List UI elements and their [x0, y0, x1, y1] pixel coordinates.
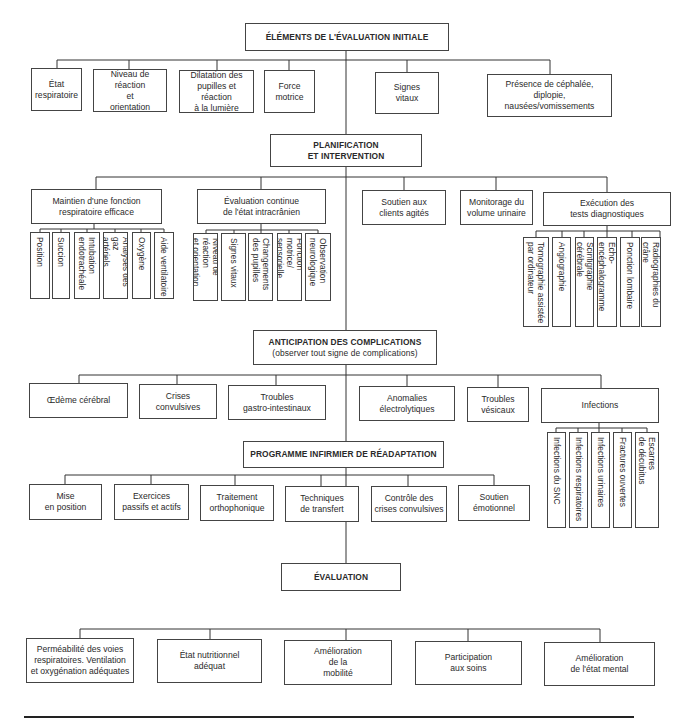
evaluation-item: Amélioration de l'état mental — [544, 642, 655, 686]
subitem-label: Observation neurologique — [308, 238, 328, 286]
subitem-label: Escarres de décubitus — [637, 437, 657, 485]
intracranial-subitem: Changements des pupilles — [248, 233, 273, 301]
diagnostic-test-subitem: Angiographie — [552, 237, 571, 327]
complications-title: ANTICIPATION DES COMPLICATIONS (observer… — [253, 330, 437, 365]
diagnostic-test-subitem: Scintigraphie cérébrale — [575, 237, 594, 327]
planning-title: PLANIFICATION ET INTERVENTION — [270, 134, 422, 167]
subitem-label: Oxygène — [137, 237, 147, 271]
subitem-label: Ponction lombaire — [625, 242, 635, 309]
intracranial-subitem: Signes vitaux — [221, 233, 246, 301]
respiratory-subitem: Position — [30, 232, 50, 299]
diagnostic-test-subitem: Ponction lombaire — [620, 237, 640, 327]
complication-item: Œdème cérébral — [29, 383, 128, 418]
complications-subtitle: (observer tout signe de complications) — [272, 348, 417, 359]
respiratory-subitem: Aide ventilatoire — [154, 232, 174, 299]
subitem-label: Infections urinaires — [596, 437, 606, 507]
subitem-label: Radiographies du crâne — [641, 242, 661, 326]
planning-group-agitated-clients: Soutien aux clients agités — [362, 190, 446, 225]
rehab-item: Soutien émotionnel — [458, 485, 530, 521]
complications-heading: ANTICIPATION DES COMPLICATIONS — [269, 337, 422, 348]
respiratory-subitem: Analyses des gaz artériels — [103, 232, 128, 299]
subitem-label: Angiographie — [557, 242, 567, 291]
intracranial-subitem: Observation neurologique — [305, 233, 331, 301]
rehab-item: Techniques de transfert — [285, 486, 359, 522]
evaluation-item: Perméabilité des voies respiratoires. Ve… — [26, 638, 134, 683]
bottom-rule — [24, 716, 316, 718]
assessment-item: Signes vitaux — [375, 72, 439, 114]
complication-item-infections: Infections — [541, 388, 659, 423]
subitem-label: Intubation endotrachéale — [77, 237, 97, 290]
subitem-label: Fractures ouvertes — [618, 437, 628, 507]
diagnostic-test-subitem: Radiographies du crâne — [641, 237, 661, 327]
assessment-item: Présence de céphalée, diplopie, nausées/… — [487, 74, 612, 117]
respiratory-subitem: Succion — [52, 232, 70, 299]
infection-subitem: Infections respiratoires — [569, 432, 588, 528]
subitem-label: Scintigraphie cérébrale — [575, 242, 594, 326]
planning-group-diagnostic-tests: Exécution des tests diagnostiques — [543, 192, 671, 226]
subitem-label: Tomographie assistée par ordinateur — [526, 242, 546, 323]
infection-subitem: Infections urinaires — [591, 432, 610, 528]
complication-item: Troubles vésicaux — [467, 387, 529, 422]
evaluation-item: État nutritionnel adéquat — [157, 639, 262, 683]
bottom-rule — [316, 716, 634, 718]
planning-group-respiratory: Maintien d'une fonction respiratoire eff… — [31, 189, 162, 224]
assessment-item: Niveau de réaction et orientation — [93, 69, 167, 112]
infection-subitem: Fractures ouvertes — [613, 432, 632, 528]
rehab-item: Traitement orthophonique — [200, 485, 274, 521]
subitem-label: Position — [35, 237, 45, 267]
assessment-item: Force motrice — [264, 70, 315, 113]
evaluation-item: Participation aux soins — [415, 641, 522, 685]
rehabilitation-title: PROGRAMME INFIRMIER DE RÉADAPTATION — [243, 441, 444, 468]
subitem-label: Écho-encéphalogramme — [597, 242, 617, 326]
infection-subitem: Infections du SNC — [547, 432, 566, 528]
rehab-item: Contrôle des crises convulsives — [371, 486, 447, 522]
subitem-label: Signes vitaux — [229, 238, 239, 288]
subitem-label: Succion — [56, 237, 66, 267]
subitem-label: Fonction motrice/ sensorielle — [277, 238, 302, 300]
planning-group-intracranial: Évaluation continue de l'état intracrâni… — [197, 189, 326, 224]
intracranial-subitem: Fonction motrice/ sensorielle — [277, 233, 302, 301]
complication-item: Crises convulsives — [139, 384, 217, 419]
subitem-label: Changements des pupilles — [251, 238, 271, 290]
subitem-label: Analyses des gaz artériels — [103, 237, 128, 298]
assessment-item: État respiratoire — [31, 68, 82, 111]
complication-item: Troubles gastro-intestinaux — [228, 385, 326, 420]
diagnostic-test-subitem: Écho-encéphalogramme — [597, 237, 617, 327]
assessment-item: Dilatation des pupilles et réaction à la… — [179, 70, 254, 113]
initial-assessment-title: ÉLÉMENTS DE L'ÉVALUATION INITIALE — [245, 23, 449, 51]
planning-group-urine-monitoring: Monitorage du volume urinaire — [460, 190, 533, 225]
diagnostic-test-subitem: Tomographie assistée par ordinateur — [523, 237, 549, 327]
rehab-item: Exercices passifs et actifs — [114, 484, 189, 520]
subitem-label: Infections respiratoires — [574, 437, 584, 521]
evaluation-title: ÉVALUATION — [281, 563, 401, 591]
subitem-label: Infections du SNC — [552, 437, 562, 505]
infection-subitem: Escarres de décubitus — [635, 432, 659, 528]
subitem-label: Niveau de réaction et orientation — [193, 238, 218, 300]
subitem-label: Aide ventilatoire — [159, 237, 169, 297]
complication-item: Anomalies électrolytiques — [359, 386, 455, 421]
intracranial-subitem: Niveau de réaction et orientation — [193, 233, 218, 301]
rehab-item: Mise en position — [29, 484, 102, 520]
respiratory-subitem: Intubation endotrachéale — [74, 232, 100, 299]
respiratory-subitem: Oxygène — [132, 232, 151, 299]
evaluation-item: Amélioration de la mobilité — [284, 640, 392, 685]
